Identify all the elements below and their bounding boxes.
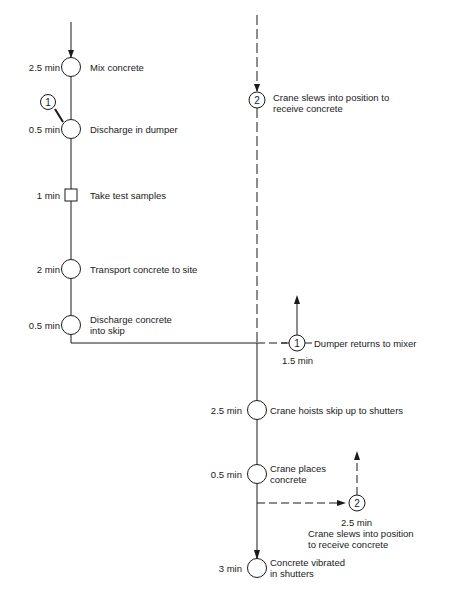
arrow-down-icon bbox=[68, 50, 74, 58]
label-dumper-returns: Dumper returns to mixer bbox=[314, 338, 416, 349]
label-crane-places: Crane places bbox=[270, 463, 326, 474]
arrow-up-icon bbox=[354, 451, 360, 460]
node-crane-places bbox=[248, 465, 267, 484]
node-mix bbox=[62, 58, 81, 77]
label-vibrated-2: in shutters bbox=[270, 568, 314, 579]
node-test-samples bbox=[65, 189, 77, 201]
arrow-up-icon bbox=[294, 295, 300, 304]
time-crane-slews-return: 2.5 min bbox=[341, 517, 372, 528]
time-vibrated: 3 min bbox=[182, 563, 242, 574]
node-vibrated bbox=[248, 559, 267, 578]
node-crane-hoists bbox=[248, 401, 267, 420]
label-test-samples: Take test samples bbox=[90, 190, 166, 201]
time-discharge-dumper: 0.5 min bbox=[0, 124, 60, 135]
arrow-down-icon bbox=[254, 84, 260, 92]
label-crane-slews-return: Crane slews into position bbox=[308, 528, 414, 539]
label-vibrated: Concrete vibrated bbox=[270, 557, 345, 568]
time-dumper-returns: 1.5 min bbox=[282, 355, 313, 366]
time-transport: 2 min bbox=[0, 264, 60, 275]
node-transport bbox=[62, 260, 81, 279]
label-discharge-dumper: Discharge in dumper bbox=[90, 124, 178, 135]
label-crane-hoists: Crane hoists skip up to shutters bbox=[270, 405, 403, 416]
node-discharge-dumper bbox=[62, 120, 81, 139]
label-mix: Mix concrete bbox=[90, 62, 144, 73]
time-test-samples: 1 min bbox=[0, 190, 60, 201]
label-crane-places-2: concrete bbox=[270, 474, 306, 485]
arrow-right-icon bbox=[337, 500, 346, 506]
label-crane-slews-top-2: receive concrete bbox=[273, 103, 343, 114]
label-crane-slews-top: Crane slews into position to bbox=[273, 92, 389, 103]
connector-1-id: 1 bbox=[45, 97, 51, 108]
time-crane-hoists: 2.5 min bbox=[182, 405, 242, 416]
flow-diagram: 1 2 1 2 bbox=[0, 0, 451, 598]
label-transport: Transport concrete to site bbox=[90, 264, 197, 275]
connector-2-return-id: 2 bbox=[354, 498, 360, 509]
label-discharge-skip-2: into skip bbox=[90, 325, 125, 336]
connector-1-return-id: 1 bbox=[294, 338, 300, 349]
node-discharge-skip bbox=[62, 316, 81, 335]
time-discharge-skip: 0.5 min bbox=[0, 320, 60, 331]
connector-2-id: 2 bbox=[254, 95, 260, 106]
label-crane-slews-return-2: to receive concrete bbox=[308, 539, 388, 550]
time-mix: 2.5 min bbox=[0, 62, 60, 73]
time-crane-places: 0.5 min bbox=[182, 469, 242, 480]
label-discharge-skip: Discharge concrete bbox=[90, 314, 172, 325]
